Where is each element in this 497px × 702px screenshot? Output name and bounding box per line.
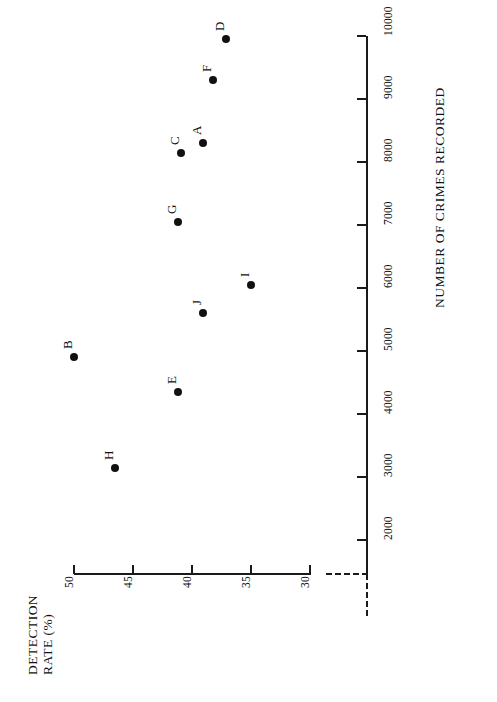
x-axis-tick bbox=[357, 35, 366, 37]
y-axis-tick bbox=[309, 565, 311, 574]
data-point-i bbox=[247, 281, 255, 289]
x-axis-line bbox=[366, 36, 368, 575]
x-axis-tick bbox=[357, 476, 366, 478]
data-point-label-a: A bbox=[189, 126, 205, 135]
data-point-e bbox=[174, 388, 182, 396]
x-axis-tick bbox=[357, 98, 366, 100]
data-point-label-i: I bbox=[237, 273, 253, 277]
data-point-j bbox=[199, 309, 207, 317]
axis-break-horizontal bbox=[326, 573, 368, 575]
data-point-c bbox=[177, 149, 185, 157]
data-point-label-f: F bbox=[199, 65, 215, 72]
scatter-plot-figure: 2000300040005000600070008000900010000 50… bbox=[0, 0, 497, 702]
data-point-label-b: B bbox=[60, 341, 76, 350]
x-axis-tick-label: 2000 bbox=[382, 516, 394, 540]
y-axis-tick-label: 35 bbox=[240, 576, 252, 588]
data-point-label-e: E bbox=[164, 376, 180, 384]
y-axis-tick bbox=[250, 565, 252, 574]
data-point-label-j: J bbox=[189, 300, 205, 305]
data-point-label-d: D bbox=[212, 22, 228, 31]
data-point-f bbox=[209, 76, 217, 84]
data-point-h bbox=[111, 464, 119, 472]
y-axis-title-line-1: DETECTION bbox=[25, 555, 40, 675]
x-axis-tick-label: 8000 bbox=[382, 138, 394, 162]
data-point-label-g: G bbox=[164, 204, 180, 213]
data-point-g bbox=[174, 218, 182, 226]
x-axis-tick-label: 10000 bbox=[382, 6, 394, 36]
x-axis-tick bbox=[357, 224, 366, 226]
data-point-label-c: C bbox=[167, 136, 183, 145]
data-point-b bbox=[70, 353, 78, 361]
x-axis-tick-label: 9000 bbox=[382, 75, 394, 99]
x-axis-tick-label: 7000 bbox=[382, 201, 394, 225]
x-axis-tick bbox=[357, 539, 366, 541]
y-axis-tick-label: 30 bbox=[299, 576, 311, 588]
y-axis-tick bbox=[132, 565, 134, 574]
y-axis-tick-label: 50 bbox=[63, 576, 75, 588]
x-axis-title: NUMBER OF CRIMES RECORDED bbox=[432, 87, 448, 308]
x-axis-tick bbox=[357, 287, 366, 289]
data-point-a bbox=[199, 139, 207, 147]
y-axis-tick bbox=[73, 565, 75, 574]
y-axis-title: DETECTION RATE (%) bbox=[25, 555, 55, 675]
x-axis-tick bbox=[357, 350, 366, 352]
data-point-label-h: H bbox=[101, 450, 117, 459]
y-axis-tick-label: 45 bbox=[122, 576, 134, 588]
y-axis-title-line-2: RATE (%) bbox=[40, 555, 55, 675]
x-axis-tick bbox=[357, 161, 366, 163]
x-axis-tick bbox=[357, 413, 366, 415]
y-axis-tick-label: 40 bbox=[181, 576, 193, 588]
x-axis-tick-label: 4000 bbox=[382, 390, 394, 414]
axis-break-vertical bbox=[366, 574, 368, 616]
x-axis-tick-label: 3000 bbox=[382, 453, 394, 477]
x-axis-tick-label: 5000 bbox=[382, 327, 394, 351]
data-point-d bbox=[222, 35, 230, 43]
y-axis-tick bbox=[191, 565, 193, 574]
x-axis-tick-label: 6000 bbox=[382, 264, 394, 288]
